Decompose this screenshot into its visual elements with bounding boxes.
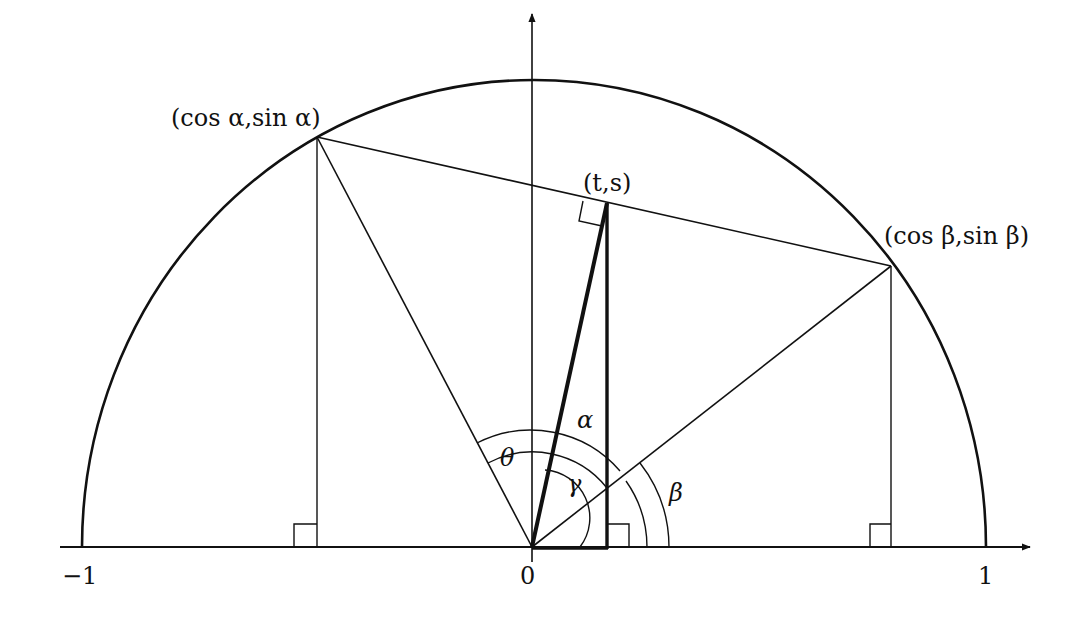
unit-circle-diagram: (cos α,sin α) (t,s) (cos β,sin β) θ α γ …: [0, 0, 1086, 626]
label-theta: θ: [500, 444, 515, 472]
label-x-max: 1: [978, 562, 993, 590]
label-x-min: −1: [62, 562, 97, 590]
right-angle-marker-alpha: [294, 524, 317, 547]
label-beta-point: (cos β,sin β): [884, 222, 1029, 250]
unit-semicircle: [82, 80, 986, 547]
label-alpha: α: [577, 406, 593, 434]
right-angle-marker-beta: [870, 524, 891, 547]
label-alpha-point: (cos α,sin α): [171, 104, 321, 132]
angle-arc-beta-outer: [640, 463, 669, 547]
label-t-s-point: (t,s): [583, 169, 631, 197]
radius-alpha: [317, 137, 532, 547]
label-beta: β: [668, 479, 683, 507]
right-angle-marker-t-s: [579, 201, 602, 226]
label-x-origin: 0: [520, 562, 535, 590]
right-angle-marker-t: [607, 524, 629, 547]
chord-alpha-beta: [317, 137, 891, 266]
label-gamma: γ: [567, 470, 582, 498]
